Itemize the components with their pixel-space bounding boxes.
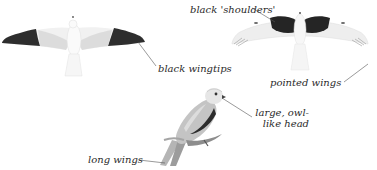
label-black-wingtips: black wingtips <box>158 63 232 74</box>
label-large-owl-like-head-line1: large, owl- <box>253 107 309 118</box>
label-large-owl-like-head: large, owl- like head <box>253 107 309 129</box>
label-long-wings: long wings <box>88 154 143 165</box>
label-large-owl-like-head-line2: like head <box>253 118 309 129</box>
label-black-shoulders: black 'shoulders' <box>190 4 275 15</box>
kite-identification-illustration: black wingtips black 'shoulders' pointed… <box>0 0 377 170</box>
perched-bird <box>160 88 226 166</box>
label-pointed-wings: pointed wings <box>270 77 341 88</box>
underside-flight-bird <box>2 16 145 76</box>
upperside-flight-bird <box>232 12 368 70</box>
